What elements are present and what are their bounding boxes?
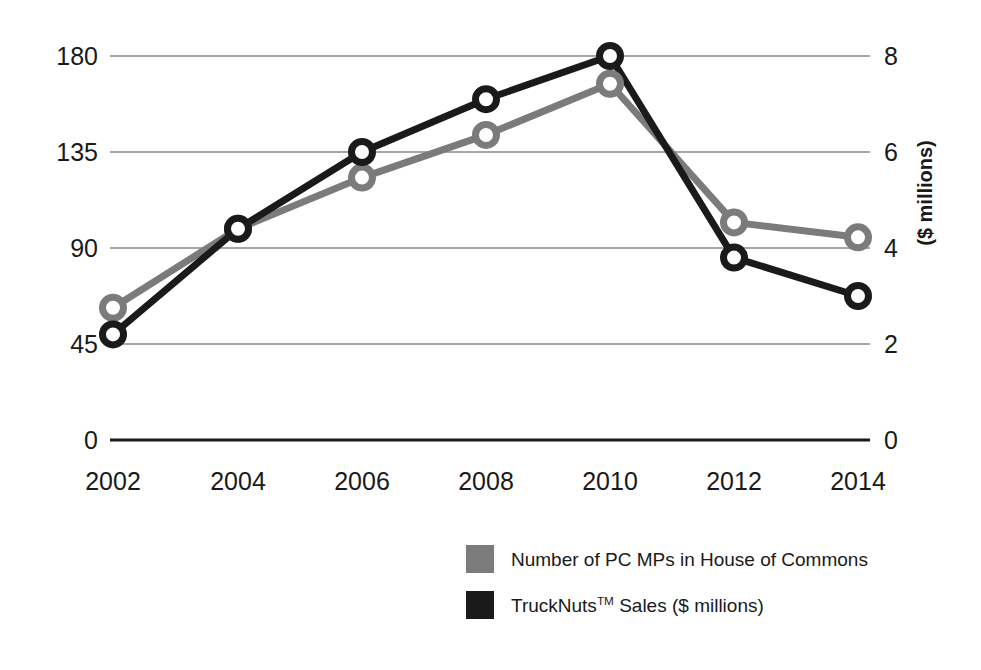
legend-swatch-pc-mps [466, 545, 494, 573]
left-axis-tick-label: 135 [56, 138, 98, 166]
chart-container: 04590135180 02468 2002200420062008201020… [0, 0, 981, 670]
right-axis-tick-label: 6 [884, 138, 898, 166]
data-point-marker [103, 324, 124, 345]
legend-item-pc-mps: Number of PC MPs in House of Commons [466, 545, 868, 573]
data-series-group [103, 46, 869, 345]
legend-item-trucknuts: TruckNutsTM Sales ($ millions) [466, 591, 868, 619]
x-axis-tick-label: 2002 [85, 467, 141, 495]
x-axis-tick-label: 2006 [334, 467, 390, 495]
data-point-marker [600, 46, 621, 67]
x-axis-tick-labels: 2002200420062008201020122014 [85, 467, 886, 495]
chart-legend: Number of PC MPs in House of Commons Tru… [466, 545, 868, 637]
right-axis-tick-label: 8 [884, 42, 898, 70]
right-axis-tick-label: 2 [884, 330, 898, 358]
left-axis-tick-labels: 04590135180 [56, 42, 98, 454]
data-point-marker [352, 167, 373, 188]
x-axis-tick-label: 2010 [582, 467, 638, 495]
data-point-marker [476, 89, 497, 110]
x-axis-tick-label: 2008 [458, 467, 514, 495]
left-axis-tick-label: 0 [84, 426, 98, 454]
series-line-0 [113, 84, 858, 308]
data-point-marker [103, 297, 124, 318]
legend-label-pc-mps: Number of PC MPs in House of Commons [511, 550, 868, 569]
left-axis-tick-label: 45 [70, 330, 98, 358]
data-point-marker [228, 218, 249, 239]
x-axis-tick-label: 2012 [706, 467, 762, 495]
right-axis-title: ($ millions) [914, 140, 936, 246]
data-point-marker [724, 212, 745, 233]
data-point-marker [476, 124, 497, 145]
x-axis-tick-label: 2014 [830, 467, 886, 495]
legend-label-trucknuts-prefix: TruckNuts [511, 595, 597, 616]
x-axis-tick-label: 2004 [210, 467, 266, 495]
legend-label-trucknuts-suffix: Sales ($ millions) [614, 595, 764, 616]
data-point-marker [600, 73, 621, 94]
right-axis-tick-labels: 02468 [884, 42, 898, 454]
right-axis-title-label: ($ millions) [914, 140, 936, 246]
right-axis-tick-label: 0 [884, 426, 898, 454]
legend-swatch-trucknuts [466, 591, 494, 619]
data-point-marker [848, 286, 869, 307]
legend-label-trucknuts-tm: TM [597, 594, 614, 607]
right-axis-tick-label: 4 [884, 234, 898, 262]
data-point-marker [848, 227, 869, 248]
left-axis-tick-label: 90 [70, 234, 98, 262]
left-axis-tick-label: 180 [56, 42, 98, 70]
data-point-marker [724, 247, 745, 268]
legend-label-trucknuts: TruckNutsTM Sales ($ millions) [511, 595, 764, 615]
data-point-marker [352, 142, 373, 163]
